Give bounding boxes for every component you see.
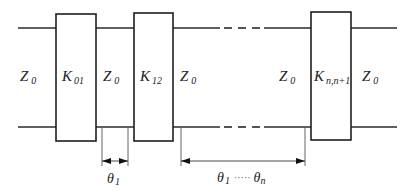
inverter-k12: K12 [134, 13, 173, 141]
impedance-label-z0-line1: Z0 [103, 68, 119, 86]
inverter-filter-diagram: K01K12Kn,n+1 Z0Z0Z0Z0Z0 θ1θ1·····θn [0, 0, 413, 191]
electrical-length-dimensions: θ1θ1·····θn [102, 128, 305, 187]
impedance-label-z0-line2: Z0 [180, 68, 196, 86]
impedance-label-z0-output: Z0 [362, 68, 378, 86]
arrow-left-icon [181, 158, 190, 164]
impedance-label-z0-linen: Z0 [279, 68, 295, 86]
inverter-blocks: K01K12Kn,n+1 [56, 12, 351, 141]
arrow-left-icon [102, 158, 111, 164]
arrow-right-icon [296, 158, 305, 164]
theta1n-dim: θ1·····θn [181, 128, 305, 186]
inverter-k01: K01 [56, 14, 96, 141]
theta1-dim: θ1 [102, 128, 128, 187]
dimension-label: θ1·····θn [217, 170, 265, 186]
arrow-right-icon [119, 158, 128, 164]
impedance-label-z0-input: Z0 [20, 68, 36, 86]
dimension-label: θ1 [107, 171, 120, 187]
inverter-knn1: Kn,n+1 [311, 12, 351, 140]
